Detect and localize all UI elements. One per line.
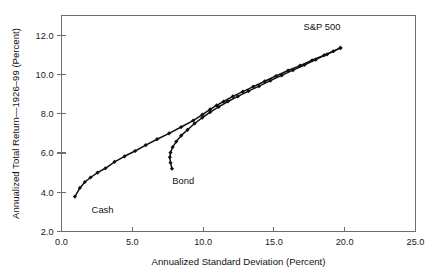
x-tick-label: 15.0 [265,237,283,247]
series-marker [168,155,172,159]
y-tick-label: 8.0 [41,109,54,119]
y-axis-title: Annualized Total Return—1926–99 (Percent… [10,28,21,219]
x-tick-label: 20.0 [336,237,354,247]
x-tick-label: 10.0 [194,237,212,247]
series-line [170,48,341,169]
series-marker [168,161,172,165]
y-tick-label: 6.0 [41,148,54,158]
y-tick-label: 4.0 [41,188,54,198]
x-tick-label: 0.0 [55,237,68,247]
plot-frame [62,16,416,232]
data-series [168,46,343,171]
point-label: Cash [92,204,114,215]
y-tick-label: 10.0 [36,70,54,80]
annotation-layer: S&P 500BondCash [92,21,341,215]
y-tick-label: 2.0 [41,227,54,237]
series-line [75,48,341,197]
efficient-frontier-chart: 0.05.010.015.020.025.0 2.04.06.08.010.01… [0,0,439,276]
series-marker [170,167,174,171]
point-label: Bond [172,175,194,186]
x-tick-label: 5.0 [126,237,139,247]
point-label: S&P 500 [304,21,341,32]
series-marker [168,150,172,154]
x-tick-label: 25.0 [407,237,425,247]
chart-container: 0.05.010.015.020.025.0 2.04.06.08.010.01… [0,0,439,276]
y-tick-label: 12.0 [36,31,54,41]
x-axis-title: Annualized Standard Deviation (Percent) [152,256,326,267]
x-axis-ticks: 0.05.010.015.020.025.0 [55,227,424,247]
data-series [73,46,343,199]
series-layer [73,46,343,199]
plot-frame-rect [62,16,416,232]
